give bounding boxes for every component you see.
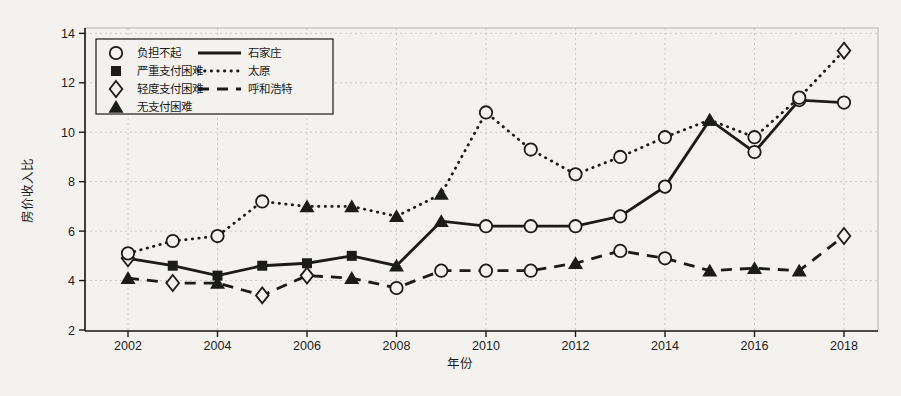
x-tick-label: 2016 xyxy=(741,339,769,353)
marker-circle xyxy=(211,230,223,242)
marker-circle xyxy=(659,180,671,192)
x-tick-label: 2014 xyxy=(651,339,679,353)
legend-label-hohhot: 呼和浩特 xyxy=(248,82,293,95)
marker-circle xyxy=(659,131,671,143)
marker-circle xyxy=(748,131,760,143)
marker-circle xyxy=(480,106,492,118)
legend-label-mild-difficulty: 轻度支付困难 xyxy=(137,82,203,95)
x-axis-label: 年份 xyxy=(447,357,473,371)
y-axis-label: 房价收入比 xyxy=(20,158,35,223)
marker-circle xyxy=(614,210,626,222)
x-tick-label: 2008 xyxy=(383,339,411,353)
marker-circle xyxy=(659,252,671,264)
y-tick-label: 6 xyxy=(68,225,75,239)
marker-square xyxy=(257,261,267,271)
marker-circle xyxy=(480,220,492,232)
marker-circle xyxy=(569,168,581,180)
y-tick-label: 12 xyxy=(61,76,75,90)
legend-label-severe-difficulty: 严重支付困难 xyxy=(137,64,203,77)
legend-label-taiyuan: 太原 xyxy=(248,65,270,77)
y-tick-label: 10 xyxy=(61,126,75,140)
y-tick-label: 8 xyxy=(68,175,75,189)
legend-label-no-difficulty: 无支付困难 xyxy=(137,101,192,113)
x-tick-label: 2004 xyxy=(204,339,232,353)
marker-circle xyxy=(256,195,268,207)
marker-circle xyxy=(480,264,492,276)
scanned-figure-page: 2468101214200220042006200820102012201420… xyxy=(0,0,901,396)
x-tick-label: 2018 xyxy=(830,339,858,353)
legend-label-unaffordable: 负担不起 xyxy=(137,46,182,59)
marker-circle xyxy=(122,247,134,259)
x-tick-label: 2010 xyxy=(472,339,500,353)
y-tick-label: 4 xyxy=(68,274,75,288)
marker-circle xyxy=(525,143,537,155)
marker-circle xyxy=(525,264,537,276)
marker-square xyxy=(347,251,357,261)
marker-circle xyxy=(525,220,537,232)
y-tick-label: 14 xyxy=(61,27,75,41)
marker-circle xyxy=(435,264,447,276)
marker-circle xyxy=(838,96,850,108)
marker-circle xyxy=(390,282,402,294)
marker-circle xyxy=(167,235,179,247)
housing-price-income-ratio-chart: 2468101214200220042006200820102012201420… xyxy=(0,0,901,396)
y-tick-label: 2 xyxy=(68,324,75,338)
marker-circle xyxy=(793,91,805,103)
marker-circle xyxy=(110,47,122,59)
x-tick-label: 2002 xyxy=(114,339,142,353)
marker-square xyxy=(111,66,121,76)
marker-circle xyxy=(614,245,626,257)
marker-circle xyxy=(614,151,626,163)
legend-box xyxy=(96,39,333,114)
legend: 负担不起 严重支付困难 轻度支付困难 无支付困难 石家庄 太原 呼和浩特 xyxy=(96,39,333,114)
marker-circle xyxy=(569,220,581,232)
marker-circle xyxy=(748,146,760,158)
marker-square xyxy=(168,261,178,271)
x-tick-label: 2006 xyxy=(293,339,321,353)
legend-label-shijiazhuang: 石家庄 xyxy=(248,46,281,59)
x-tick-label: 2012 xyxy=(562,339,590,353)
